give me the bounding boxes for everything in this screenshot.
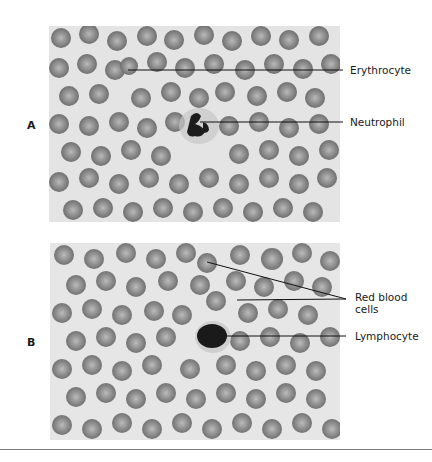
page-divider [0,449,432,450]
micrograph-b [50,243,340,440]
blood-smear-b-image [50,243,340,440]
panel-label-a: A [27,120,36,132]
micrograph-a [49,26,340,222]
neutrophil-cell [179,108,219,144]
callout-red-blood-cells-line1: Red blood [355,291,407,303]
lymphocyte-cell [195,321,231,353]
callout-neutrophil: Neutrophil [350,116,405,128]
blood-smear-a-image [49,26,340,222]
callout-lymphocyte: Lymphocyte [355,330,419,342]
callout-erythrocyte: Erythrocyte [350,64,411,76]
callout-red-blood-cells-line2: cells [355,303,379,315]
panel-label-b: B [27,337,35,349]
